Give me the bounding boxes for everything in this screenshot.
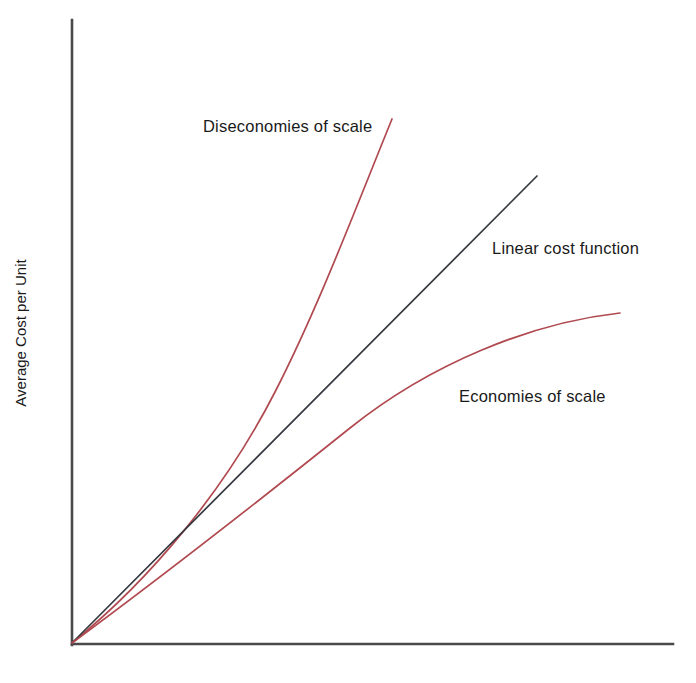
- economies-of-scale-label: Economies of scale: [459, 388, 606, 405]
- chart-plot-area: [0, 0, 696, 683]
- diseconomies-of-scale-curve: [72, 119, 392, 643]
- economies-of-scale-curve: [72, 313, 620, 643]
- linear-cost-function-label: Linear cost function: [492, 240, 639, 257]
- linear-cost-function-line: [72, 176, 537, 643]
- y-axis-label-text: Average Cost per Unit: [13, 259, 28, 406]
- y-axis-label: Average Cost per Unit: [0, 245, 40, 420]
- diseconomies-of-scale-label: Diseconomies of scale: [203, 118, 372, 135]
- cost-curve-chart: Diseconomies of scale Linear cost functi…: [0, 0, 696, 683]
